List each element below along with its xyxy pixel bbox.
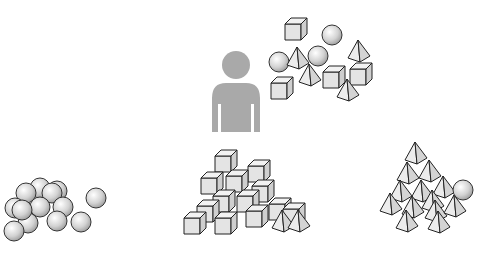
sphere-cluster <box>4 178 106 241</box>
person-silhouette-icon <box>212 51 260 132</box>
clustering-diagram <box>0 0 483 253</box>
pyramid-cluster <box>380 142 473 233</box>
cube-cluster <box>184 150 310 234</box>
mixed-objects-group <box>269 18 372 101</box>
